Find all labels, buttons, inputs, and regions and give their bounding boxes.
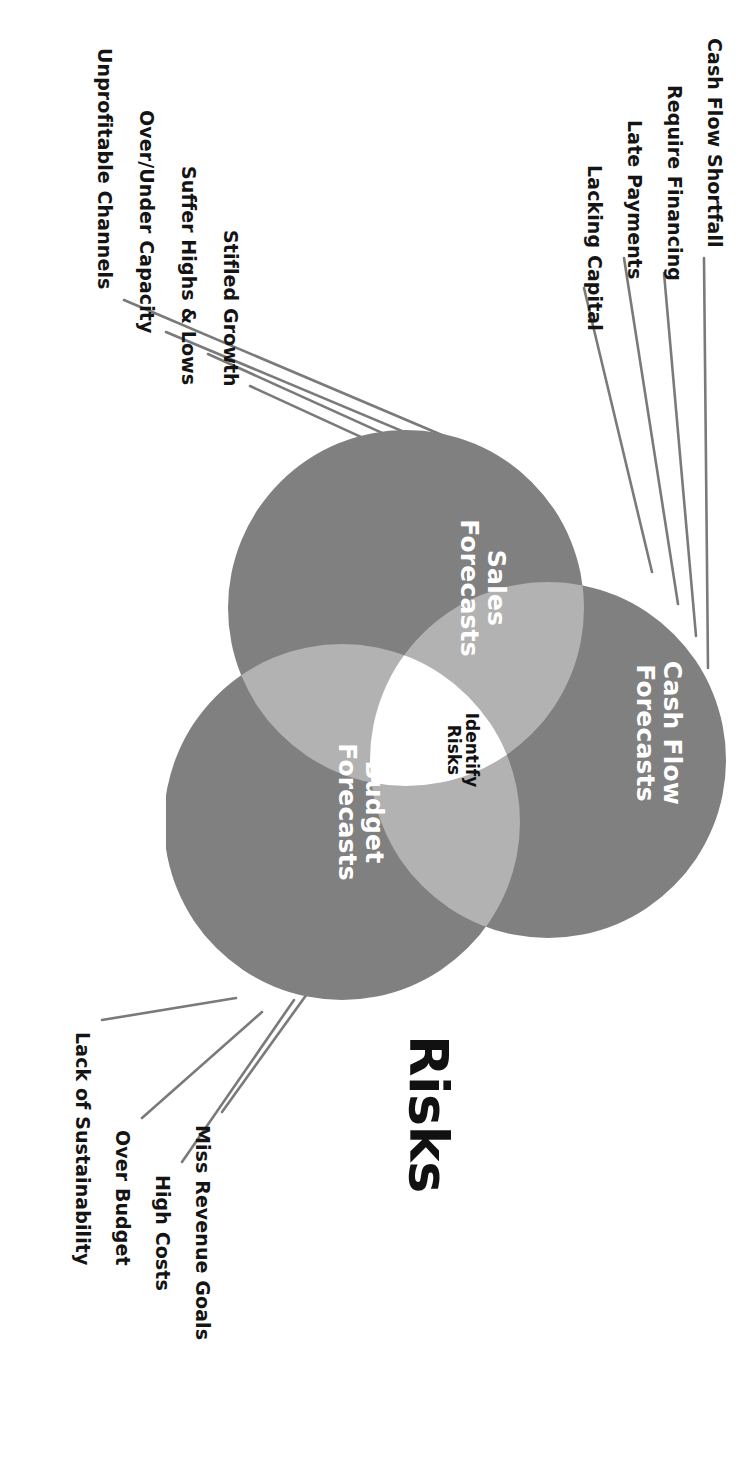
callout-miss-revenue-goals: Miss Revenue Goals [192,1125,214,1340]
callout-high-costs: High Costs [152,1175,174,1291]
venn-svg [166,430,726,1030]
diagram-rotation-container: Cash Flow Forecasts Sales Forecasts Budg… [0,0,748,1470]
callout-suffer-highs-and-lows: Suffer Highs & Lows [178,166,200,385]
callout-require-financing: Require Financing [664,85,686,281]
callout-lack-of-sustainability: Lack of Sustainability [72,1032,94,1265]
callout-unprofitable-channels: Unprofitable Channels [94,48,116,289]
page-title: Risks [397,1035,460,1193]
callout-lacking-capital: Lacking Capital [584,165,606,331]
diagram-stage: Cash Flow Forecasts Sales Forecasts Budg… [0,0,748,1470]
callout-over-under-capacity: Over/Under Capacity [136,110,158,334]
callout-late-payments: Late Payments [624,120,646,279]
callout-cash-flow-shortfall: Cash Flow Shortfall [704,38,726,248]
venn-diagram [166,430,726,1030]
callout-over-budget: Over Budget [112,1130,134,1266]
callout-stifled-growth: Stifled Growth [220,230,242,387]
